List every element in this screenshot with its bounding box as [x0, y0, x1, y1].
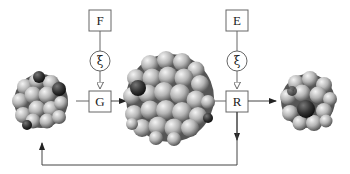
left-branch: F ξ G: [89, 10, 111, 112]
xi-left-label: ξ: [97, 54, 104, 68]
small-cluster-output: [280, 71, 337, 131]
box-e-label: E: [233, 13, 241, 28]
small-cluster-input: [12, 71, 68, 130]
box-r-label: R: [233, 94, 242, 109]
right-branch: E ξ R: [226, 10, 248, 112]
xi-right-label: ξ: [234, 54, 241, 68]
large-cluster-generated: [123, 51, 215, 146]
box-g-label: G: [95, 94, 104, 109]
box-f-label: F: [96, 13, 103, 28]
process-diagram: F ξ G E ξ R: [0, 0, 350, 174]
